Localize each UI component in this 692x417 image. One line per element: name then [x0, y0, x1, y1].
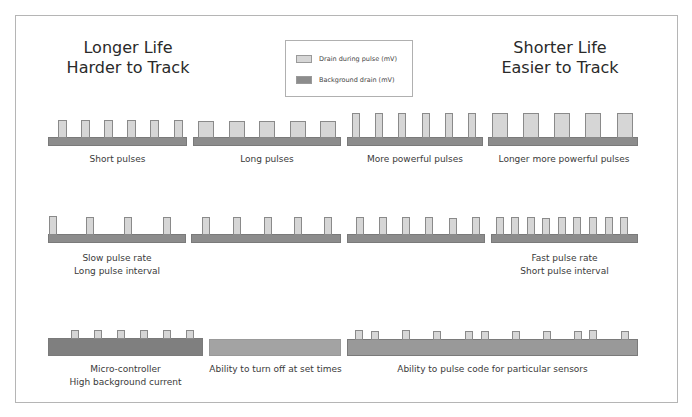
- pulse-bar: [356, 217, 364, 235]
- caption-pulse-code: Ability to pulse code for particular sen…: [347, 363, 638, 376]
- caption-line: Short pulses: [48, 153, 187, 166]
- pulse-bar: [621, 331, 629, 340]
- pulse-bar: [264, 217, 272, 235]
- caption-line: Longer more powerful pulses: [484, 153, 644, 166]
- pulse-bar: [202, 217, 210, 235]
- pulse-bar: [468, 113, 476, 138]
- background-drain-bar: [491, 234, 638, 243]
- caption-line: Long pulses: [193, 153, 341, 166]
- caption-line: Ability to turn off at set times: [203, 363, 348, 376]
- caption-more-powerful-pulses: More powerful pulses: [347, 153, 483, 166]
- pulse-bar: [71, 330, 79, 339]
- pulse-bar: [481, 331, 489, 340]
- pulse-bar: [617, 113, 633, 138]
- high-background-drain-bar: [48, 338, 203, 356]
- pulse-bar: [527, 217, 535, 235]
- title-shorter-life: Shorter Life Easier to Track: [470, 38, 650, 78]
- caption-line: Slow pulse rate: [48, 252, 186, 265]
- background-drain-bar: [347, 137, 483, 146]
- pulse-bar: [402, 330, 410, 340]
- background-drain-bar: [347, 234, 485, 243]
- pulse-bar: [86, 217, 94, 235]
- pulse-bar: [174, 120, 183, 138]
- pulse-bar: [425, 217, 433, 235]
- pulse-bar: [371, 331, 379, 340]
- caption-slow-pulse-rate: Slow pulse rate Long pulse interval: [48, 252, 186, 278]
- legend-item-pulse: Drain during pulse (mV): [296, 55, 397, 63]
- pulse-bar: [294, 217, 302, 235]
- caption-line: Fast pulse rate: [491, 252, 638, 265]
- caption-line: Long pulse interval: [48, 265, 186, 278]
- pulse-bar: [163, 330, 171, 339]
- pulse-bar: [355, 330, 363, 340]
- pulse-bar: [290, 121, 306, 138]
- caption-micro-controller: Micro-controller High background current: [48, 363, 203, 389]
- title-right-line1: Shorter Life: [470, 38, 650, 58]
- pulse-bar: [589, 330, 597, 340]
- caption-line: Short pulse interval: [491, 265, 638, 278]
- pulse-bar: [94, 330, 102, 339]
- pulse-bar: [127, 120, 136, 138]
- pulse-bar: [375, 113, 383, 138]
- pulse-swatch-icon: [296, 55, 312, 63]
- pulse-bar: [554, 113, 570, 138]
- pulse-bar: [523, 113, 539, 138]
- pulse-bar: [324, 217, 332, 235]
- legend: Drain during pulse (mV) Background drain…: [285, 40, 413, 97]
- pulse-bar: [233, 217, 241, 235]
- caption-line: More powerful pulses: [347, 153, 483, 166]
- pulse-bar: [511, 217, 519, 235]
- pulse-bar: [496, 217, 504, 235]
- pulse-bar: [585, 113, 601, 138]
- pulse-bar: [445, 113, 453, 138]
- background-drain-bar: [48, 234, 186, 243]
- pulse-bar: [163, 217, 171, 235]
- background-drain-bar: [347, 339, 638, 356]
- pulse-bar: [49, 216, 57, 235]
- pulse-bar: [352, 113, 360, 138]
- pulse-bar: [58, 120, 67, 138]
- background-drain-bar: [193, 137, 341, 146]
- pulse-bar: [124, 217, 132, 235]
- pulse-bar: [150, 120, 159, 138]
- off-period-bar: [209, 339, 341, 356]
- pulse-bar: [574, 331, 582, 340]
- background-drain-bar: [488, 137, 638, 146]
- pulse-bar: [472, 217, 480, 235]
- caption-line: Ability to pulse code for particular sen…: [347, 363, 638, 376]
- caption-turn-off: Ability to turn off at set times: [203, 363, 348, 376]
- pulse-bar: [81, 120, 90, 138]
- pulse-bar: [542, 218, 550, 235]
- caption-long-pulses: Long pulses: [193, 153, 341, 166]
- pulse-bar: [573, 217, 581, 235]
- pulse-bar: [449, 218, 457, 235]
- pulse-bar: [320, 121, 336, 138]
- title-right-line2: Easier to Track: [470, 58, 650, 78]
- background-swatch-icon: [296, 76, 312, 84]
- pulse-bar: [104, 120, 113, 138]
- pulse-bar: [117, 330, 125, 339]
- title-left-line1: Longer Life: [38, 38, 218, 58]
- caption-line: High background current: [48, 376, 203, 389]
- pulse-bar: [398, 113, 406, 138]
- pulse-bar: [140, 330, 148, 339]
- pulse-bar: [229, 121, 245, 138]
- pulse-bar: [589, 217, 597, 235]
- caption-line: Micro-controller: [48, 363, 203, 376]
- pulse-bar: [465, 331, 473, 340]
- background-drain-bar: [191, 234, 341, 243]
- legend-item-background: Background drain (mV): [296, 76, 394, 84]
- background-drain-bar: [48, 137, 187, 146]
- pulse-bar: [543, 331, 551, 340]
- pulse-bar: [379, 217, 387, 235]
- pulse-bar: [558, 217, 566, 235]
- legend-label-pulse: Drain during pulse (mV): [319, 55, 397, 63]
- pulse-bar: [186, 330, 194, 339]
- pulse-bar: [198, 121, 214, 138]
- pulse-bar: [402, 217, 410, 235]
- title-longer-life: Longer Life Harder to Track: [38, 38, 218, 78]
- pulse-bar: [620, 217, 628, 235]
- pulse-bar: [422, 113, 430, 138]
- pulse-bar: [492, 113, 508, 138]
- pulse-bar: [259, 121, 275, 138]
